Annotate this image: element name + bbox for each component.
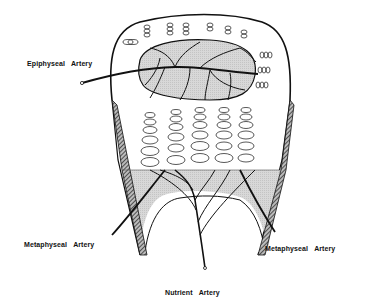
- chondrocyte-columns: [141, 108, 254, 167]
- marrow-arch: [145, 196, 265, 252]
- label-metaphyseal-artery-right: MetaphysealArtery: [265, 245, 335, 252]
- label-nutrient-artery: NutrientArtery: [165, 289, 220, 296]
- label-metaphyseal-artery-left: MetaphysealArtery: [24, 241, 94, 248]
- label-epiphyseal-artery: EpiphysealArtery: [27, 60, 92, 67]
- bone-vascular-diagram: [0, 0, 371, 304]
